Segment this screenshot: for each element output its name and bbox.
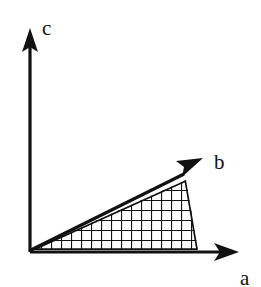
diagram-svg: [0, 0, 261, 287]
axis-c: [22, 28, 38, 252]
crosshatched-triangle-region: [31, 180, 198, 250]
axis-label-b: b: [214, 152, 225, 173]
figure-canvas: c b a: [0, 0, 261, 287]
axis-b-arrowhead-icon: [176, 158, 203, 177]
axis-label-c: c: [42, 18, 51, 39]
axis-label-a: a: [240, 268, 249, 287]
